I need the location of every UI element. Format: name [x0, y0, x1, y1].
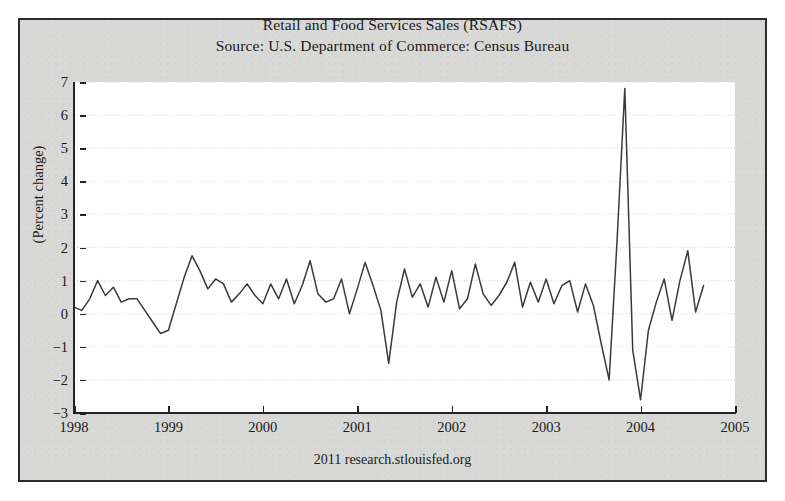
- chart-figure: Retail and Food Services Sales (RSAFS) S…: [0, 0, 785, 501]
- chart-title: Retail and Food Services Sales (RSAFS): [0, 14, 785, 35]
- y-tick-mark: [80, 181, 86, 183]
- y-tick-mark: [80, 148, 86, 150]
- x-tick-mark: [168, 406, 170, 413]
- chart-title-block: Retail and Food Services Sales (RSAFS) S…: [0, 14, 785, 56]
- x-tick-label: 2004: [606, 419, 676, 435]
- y-tick-mark: [80, 82, 86, 84]
- x-tick-mark: [546, 406, 548, 413]
- x-tick-mark: [735, 406, 737, 413]
- chart-footer-source: 2011 research.stlouisfed.org: [0, 452, 785, 468]
- x-tick-mark: [357, 406, 359, 413]
- series-canvas: [74, 82, 735, 413]
- y-tick-label: 0: [22, 307, 68, 322]
- plot-area: [74, 82, 735, 413]
- y-tick-label: 1: [22, 274, 68, 289]
- x-tick-label: 2002: [417, 419, 487, 435]
- x-tick-label: 2003: [511, 419, 581, 435]
- y-tick-mark: [80, 281, 86, 283]
- data-series-line: [74, 89, 704, 400]
- y-tick-mark: [80, 314, 86, 316]
- x-tick-mark: [452, 406, 454, 413]
- y-tick-mark: [80, 347, 86, 349]
- y-tick-mark: [80, 248, 86, 250]
- x-tick-label: 1998: [39, 419, 109, 435]
- x-tick-mark: [74, 406, 76, 413]
- y-tick-label: −2: [22, 373, 68, 388]
- y-tick-label: −1: [22, 340, 68, 355]
- gridlines: [74, 82, 735, 380]
- y-tick-mark: [80, 380, 86, 382]
- x-tick-label: 2000: [228, 419, 298, 435]
- x-tick-mark: [641, 406, 643, 413]
- y-axis-title: (Percent change): [30, 115, 47, 275]
- y-tick-mark: [80, 413, 86, 415]
- x-tick-label: 1999: [133, 419, 203, 435]
- x-tick-label: 2001: [322, 419, 392, 435]
- y-tick-mark: [80, 115, 86, 117]
- x-tick-label: 2005: [700, 419, 770, 435]
- y-tick-mark: [80, 214, 86, 216]
- chart-subtitle: Source: U.S. Department of Commerce: Cen…: [0, 35, 785, 56]
- y-axis-spine: [73, 82, 75, 414]
- x-tick-mark: [263, 406, 265, 413]
- y-tick-label: 7: [22, 75, 68, 90]
- x-axis-spine: [73, 412, 736, 414]
